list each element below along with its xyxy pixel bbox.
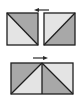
square-b bbox=[44, 13, 75, 45]
combined-rectangle bbox=[11, 63, 73, 94]
square-a bbox=[7, 13, 38, 45]
top-arrow-left-icon bbox=[34, 8, 49, 12]
diagram-canvas bbox=[0, 0, 81, 100]
bottom-arrow-right-icon bbox=[33, 56, 48, 60]
